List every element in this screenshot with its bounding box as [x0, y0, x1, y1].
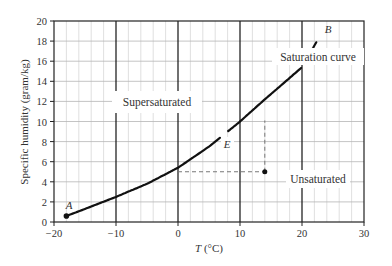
y-tick-label: 8 — [42, 137, 47, 148]
y-axis-label: Specific humidity (gram/kg) — [18, 59, 31, 185]
y-tick-label: 16 — [37, 56, 48, 67]
unsaturated-point-marker — [262, 169, 267, 174]
point-b-label: B — [325, 23, 332, 35]
x-axis-label: T (°C) — [195, 242, 223, 255]
saturation-curve-segment — [66, 138, 220, 216]
x-tick-label: −10 — [108, 228, 124, 239]
x-tick-label: 0 — [175, 228, 180, 239]
humidity-chart: Supersaturated Unsaturated Saturation cu… — [0, 0, 392, 266]
unsaturated-label: Unsaturated — [290, 173, 346, 185]
y-tick-label: 10 — [37, 117, 48, 128]
x-axis-label-unit: (°C) — [201, 242, 223, 255]
y-tick-label: 4 — [42, 177, 48, 188]
y-tick-label: 0 — [42, 217, 47, 228]
x-tick-label: 30 — [359, 228, 370, 239]
point-a-label: A — [65, 199, 73, 211]
y-tick-label: 20 — [37, 16, 48, 27]
point-e-label: E — [223, 138, 231, 150]
saturation-curve-label: Saturation curve — [280, 51, 356, 63]
saturation-curve — [64, 42, 317, 218]
x-tick-label: 20 — [297, 228, 308, 239]
y-tick-label: 18 — [37, 36, 48, 47]
x-tick-label: −20 — [46, 228, 62, 239]
y-tick-label: 12 — [37, 96, 48, 107]
y-tick-label: 2 — [42, 197, 47, 208]
supersaturated-label: Supersaturated — [123, 96, 192, 109]
point-a-marker — [64, 213, 70, 219]
y-tick-label: 6 — [42, 157, 47, 168]
y-tick-label: 14 — [37, 76, 48, 87]
x-tick-label: 10 — [235, 228, 246, 239]
